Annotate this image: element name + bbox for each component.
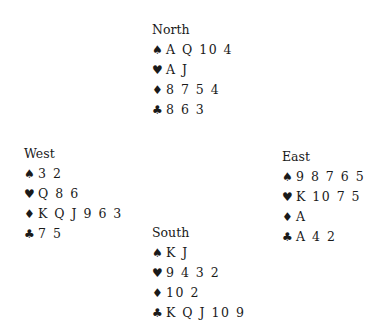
heart-icon: ♥ <box>152 263 166 283</box>
spade-icon: ♠ <box>24 164 38 184</box>
west-diamonds: ♦K Q J 9 6 3 <box>24 204 123 224</box>
east-hearts: ♥K 10 7 5 <box>282 187 365 207</box>
diamond-icon: ♦ <box>24 204 38 224</box>
west-hand: West ♠3 2 ♥Q 8 6 ♦K Q J 9 6 3 ♣7 5 <box>24 144 123 244</box>
club-icon: ♣ <box>152 303 166 323</box>
north-hearts: ♥A J <box>152 60 233 80</box>
spade-icon: ♠ <box>152 40 166 60</box>
heart-icon: ♥ <box>24 184 38 204</box>
west-clubs: ♣7 5 <box>24 224 123 244</box>
spade-icon: ♠ <box>282 167 296 187</box>
spade-icon: ♠ <box>152 243 166 263</box>
east-spades: ♠9 8 7 6 5 <box>282 167 365 187</box>
south-hearts: ♥9 4 3 2 <box>152 263 245 283</box>
west-label: West <box>24 144 123 164</box>
west-spades: ♠3 2 <box>24 164 123 184</box>
east-label: East <box>282 147 365 167</box>
north-hand: North ♠A Q 10 4 ♥A J ♦8 7 5 4 ♣8 6 3 <box>152 20 233 120</box>
east-clubs: ♣A 4 2 <box>282 227 365 247</box>
diamond-icon: ♦ <box>152 283 166 303</box>
south-hand: South ♠K J ♥9 4 3 2 ♦10 2 ♣K Q J 10 9 <box>152 223 245 323</box>
west-hearts: ♥Q 8 6 <box>24 184 123 204</box>
south-spades: ♠K J <box>152 243 245 263</box>
club-icon: ♣ <box>24 224 38 244</box>
south-clubs: ♣K Q J 10 9 <box>152 303 245 323</box>
club-icon: ♣ <box>282 227 296 247</box>
north-clubs: ♣8 6 3 <box>152 100 233 120</box>
east-hand: East ♠9 8 7 6 5 ♥K 10 7 5 ♦A ♣A 4 2 <box>282 147 365 247</box>
south-diamonds: ♦10 2 <box>152 283 245 303</box>
heart-icon: ♥ <box>282 187 296 207</box>
north-diamonds: ♦8 7 5 4 <box>152 80 233 100</box>
diamond-icon: ♦ <box>152 80 166 100</box>
east-diamonds: ♦A <box>282 207 365 227</box>
south-label: South <box>152 223 245 243</box>
club-icon: ♣ <box>152 100 166 120</box>
heart-icon: ♥ <box>152 60 166 80</box>
north-spades: ♠A Q 10 4 <box>152 40 233 60</box>
north-label: North <box>152 20 233 40</box>
diamond-icon: ♦ <box>282 207 296 227</box>
